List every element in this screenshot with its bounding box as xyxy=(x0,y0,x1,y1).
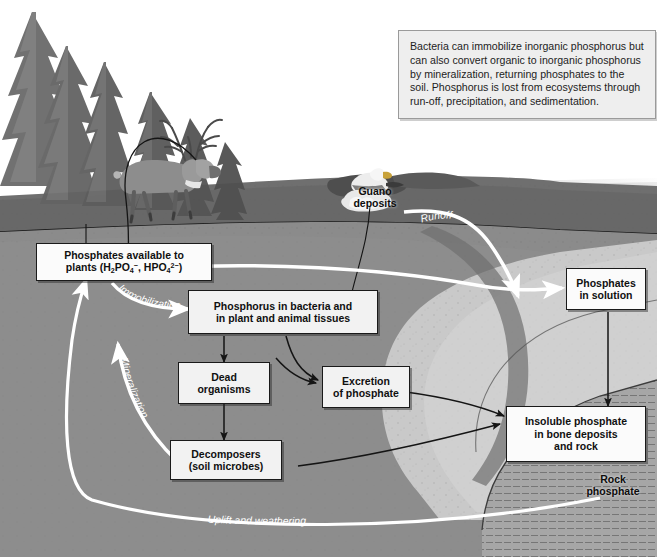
insoluble-line-1: Insoluble phosphate xyxy=(525,415,627,427)
decomposers-line-2: (soil microbes) xyxy=(189,460,264,472)
plants-formula-mid2: , HPO xyxy=(138,261,167,273)
decomposers-line-1: Decomposers xyxy=(191,448,260,460)
tissues-line-1: Phosphorus in bacteria and xyxy=(214,300,352,312)
box-dead-organisms: Dead organisms xyxy=(178,362,270,404)
box-insoluble-phosphate: Insoluble phosphate in bone deposits and… xyxy=(506,406,646,462)
rock-phosphate-label: Rock phosphate xyxy=(576,474,650,497)
plants-formula-pre: plants (H xyxy=(66,261,111,273)
plants-formula: plants (H2PO4−, HPO42−) xyxy=(66,261,182,273)
solution-line-1: Phosphates xyxy=(576,277,636,289)
plants-formula-mid: PO xyxy=(115,261,130,273)
guano-deposits-label: Guano deposits xyxy=(345,186,405,209)
excretion-line-1: Excretion xyxy=(342,375,390,387)
dead-line-2: organisms xyxy=(197,383,250,395)
solution-line-2: in solution xyxy=(579,289,632,301)
explanatory-note: Bacteria can immobilize inorganic phosph… xyxy=(398,30,656,119)
box-phosphates-available-to-plants: Phosphates available to plants (H2PO4−, … xyxy=(36,243,212,281)
insoluble-line-2: in bone deposits xyxy=(534,428,617,440)
dead-line-1: Dead xyxy=(211,371,237,383)
excretion-line-2: of phosphate xyxy=(333,387,399,399)
tissues-line-2: in plant and animal tissues xyxy=(216,312,350,324)
phosphorus-cycle-figure: Immobilization Mineralization Leaching R… xyxy=(0,0,657,557)
box-excretion-of-phosphate: Excretion of phosphate xyxy=(322,366,410,408)
rock-line-2: phosphate xyxy=(586,485,639,497)
box-phosphorus-in-tissues: Phosphorus in bacteria and in plant and … xyxy=(188,290,378,334)
guano-line-1: Guano xyxy=(358,185,391,197)
plants-formula-end: ) xyxy=(179,261,183,273)
plants-line-1: Phosphates available to xyxy=(64,249,184,261)
guano-line-2: deposits xyxy=(353,197,396,209)
rock-line-1: Rock xyxy=(600,473,626,485)
box-decomposers: Decomposers (soil microbes) xyxy=(170,440,282,480)
box-phosphates-in-solution: Phosphates in solution xyxy=(566,268,646,310)
insoluble-line-3: and rock xyxy=(554,440,598,452)
label-uplift-weathering: Uplift and weathering xyxy=(207,513,306,527)
